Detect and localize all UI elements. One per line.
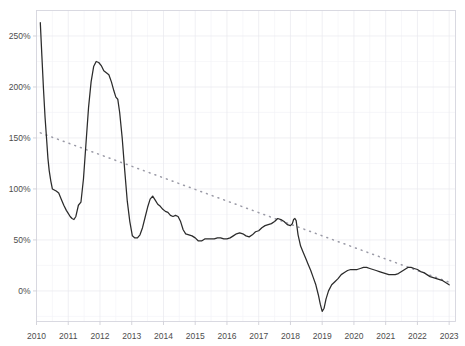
x-axis-tick-label: 2015 bbox=[186, 331, 205, 341]
x-axis-tick-label: 2019 bbox=[313, 331, 332, 341]
x-axis-tick-label: 2016 bbox=[217, 331, 236, 341]
x-axis-tick-label: 2012 bbox=[91, 331, 110, 341]
y-axis-tick-label: 250% bbox=[9, 31, 31, 41]
x-axis-tick-label: 2013 bbox=[122, 331, 141, 341]
trend-line-series bbox=[40, 133, 450, 283]
x-axis-tick-label: 2021 bbox=[376, 331, 395, 341]
x-axis-tick-label: 2011 bbox=[59, 331, 78, 341]
x-axis-tick-label: 2010 bbox=[27, 331, 46, 341]
x-axis-ticks bbox=[37, 322, 450, 326]
chart-container: 250%200%150%100%50%0% 201020112012201320… bbox=[0, 0, 465, 346]
x-axis-labels: 2010201120122013201420152016201720182019… bbox=[27, 331, 459, 341]
x-axis-tick-label: 2022 bbox=[408, 331, 427, 341]
y-axis-ticks bbox=[33, 36, 37, 291]
x-axis-tick-label: 2017 bbox=[249, 331, 268, 341]
y-axis-tick-label: 200% bbox=[9, 82, 31, 92]
x-axis-tick-label: 2014 bbox=[154, 331, 173, 341]
x-axis-tick-label: 2023 bbox=[440, 331, 459, 341]
y-axis-tick-label: 50% bbox=[13, 235, 30, 245]
y-axis-tick-label: 150% bbox=[9, 133, 31, 143]
x-axis-tick-label: 2020 bbox=[344, 331, 363, 341]
y-axis-tick-label: 0% bbox=[18, 286, 31, 296]
y-axis-tick-label: 100% bbox=[9, 184, 31, 194]
value-line-series bbox=[40, 23, 449, 312]
line-chart: 250%200%150%100%50%0% 201020112012201320… bbox=[0, 0, 465, 346]
x-axis-tick-label: 2018 bbox=[281, 331, 300, 341]
y-axis-labels: 250%200%150%100%50%0% bbox=[9, 31, 31, 296]
